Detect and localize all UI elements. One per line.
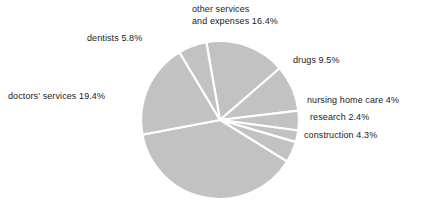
pie-chart: other services and expenses 16.4% dentis…	[0, 0, 427, 212]
pie-label-other-services-line2: and expenses 16.4%	[192, 16, 278, 26]
pie-label-other-services-line1: other services	[192, 4, 249, 14]
pie-label-dentists: dentists 5.8%	[87, 33, 142, 45]
pie-label-construction: construction 4.3%	[304, 130, 377, 142]
pie-label-drugs: drugs 9.5%	[293, 55, 340, 67]
pie-label-doctors-services: doctors' services 19.4%	[8, 91, 105, 103]
pie-label-research: research 2.4%	[310, 112, 369, 124]
pie-label-nursing-home-care: nursing home care 4%	[307, 95, 399, 107]
pie-slice-group	[141, 41, 299, 199]
pie-label-other-services: other services and expenses 16.4%	[192, 4, 322, 27]
